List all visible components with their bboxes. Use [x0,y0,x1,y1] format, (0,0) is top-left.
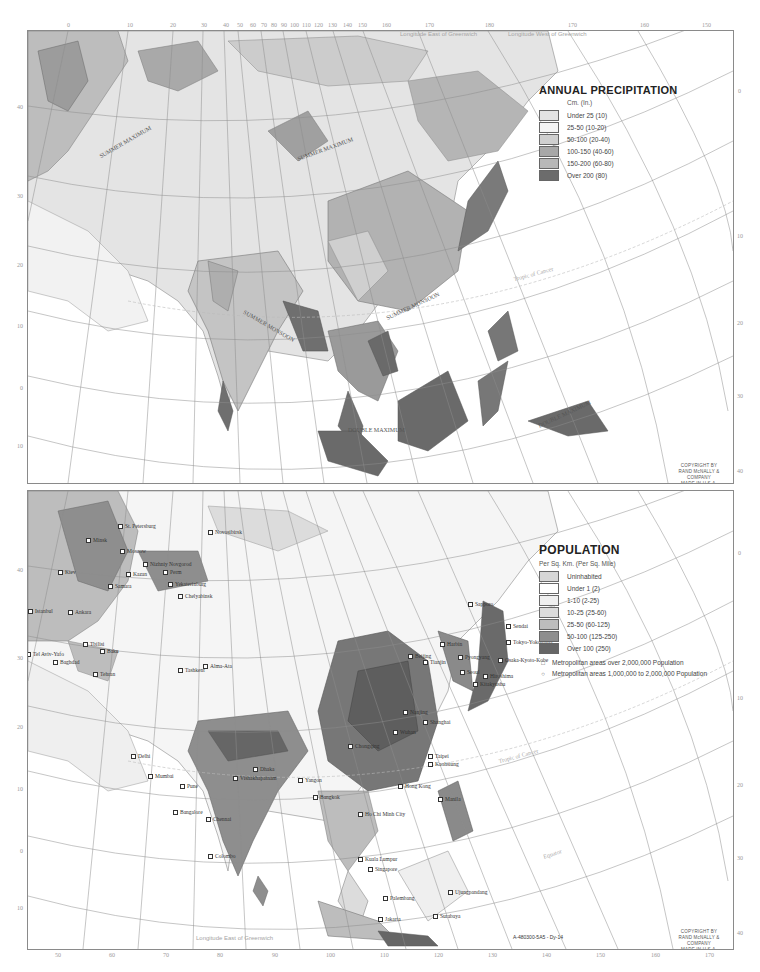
copyright-notice: COPYRIGHT BY RAND McNALLY & COMPANY MADE… [668,929,730,950]
legend-swatch [539,643,559,654]
legend-swatch [539,146,559,157]
legend-row: Under 1 (2) [539,582,707,594]
lon-tick: 130 [488,952,497,958]
city-label: Tbilisi [83,641,104,647]
city-label: Nanjing [403,709,428,715]
city-label: Ankara [68,609,91,615]
city-label: Minsk [86,537,107,543]
lon-tick: 130 [328,22,337,28]
city-label: Novosibirsk [208,529,242,535]
legend-swatch [539,158,559,169]
metro-legend-row: □Metropolitan areas over 2,000,000 Popul… [539,657,707,668]
legend-row: 100-150 (40-60) [539,145,678,157]
lon-tick: 110 [380,952,389,958]
city-label: Shanghai [423,719,450,725]
lon-tick: 120 [314,22,323,28]
city-label: Kitakyushu [473,681,505,687]
precipitation-legend: ANNUAL PRECIPITATION Cm. (In.) Under 25 … [539,84,678,181]
city-label: Jakarta [378,916,401,922]
precipitation-map: Longitude East of Greenwich Longitude We… [27,30,734,484]
lat-tick: 20 [17,724,23,730]
city-label: Manila [438,796,461,802]
lat-tick: 30 [737,393,743,399]
legend-swatch [539,631,559,642]
lon-tick: 70 [163,952,169,958]
longitude-west-label: Longitude West of Greenwich [508,31,587,37]
legend-label: Over 200 (80) [567,172,607,179]
lon-tick: 10 [127,22,133,28]
legend-label: 50-100 (20-40) [567,136,610,143]
legend-row: 150-200 (60-80) [539,157,678,169]
population-map: Tropic of Cancer Equator Longitude East … [27,490,734,950]
metro-legend-row: ○Metropolitan areas 1,000,000 to 2,000,0… [539,668,707,679]
legend-swatch [539,170,559,181]
lat-tick: 0 [20,385,23,391]
legend-label: Over 100 (250) [567,645,611,652]
city-label: Kaohsiung [428,761,459,767]
lon-tick: 150 [702,22,711,28]
lon-tick: 120 [434,952,443,958]
city-label: Chelyabinsk [178,593,213,599]
city-label: Wuhan [393,729,416,735]
city-label: Dhaka [253,766,274,772]
lon-tick: 160 [382,22,391,28]
city-label: Bangalore [173,809,203,815]
lat-tick: 0 [738,88,741,94]
legend-swatch [539,583,559,594]
legend-swatch [539,595,559,606]
lon-tick: 30 [201,22,207,28]
lat-tick: 30 [17,193,23,199]
legend-label: 100-150 (40-60) [567,148,614,155]
city-label: Delhi [131,753,150,759]
city-label: Hong Kong [398,783,431,789]
city-label: Colombo [208,853,235,859]
copyright-line: RAND McNALLY & COMPANY [668,469,730,481]
city-label: Vishakhapatnam [233,775,277,781]
lon-tick: 70 [261,22,267,28]
lon-tick: 0 [67,22,70,28]
lat-tick: 20 [737,782,743,788]
lon-tick: 40 [223,22,229,28]
copyright-notice: COPYRIGHT BY RAND McNALLY & COMPANY MADE… [668,463,730,484]
legend-title: POPULATION [539,543,707,557]
city-label: Tel Aviv-Yafo [27,651,64,657]
lat-tick: 10 [17,323,23,329]
population-legend: POPULATION Per Sq. Km. (Per Sq. Mile) Un… [539,543,707,679]
city-label: Harbin [440,641,462,647]
legend-label: 25-50 (10-20) [567,124,606,131]
city-label: Moscow [120,548,146,554]
plate-code: A-480300-5A5 - Dy-14 [513,934,563,940]
legend-row: 50-100 (125-250) [539,630,707,642]
lat-tick: 30 [737,855,743,861]
lat-tick: 40 [737,468,743,474]
copyright-line: MADE IN U.S.A. [668,947,730,950]
lat-tick: 20 [17,262,23,268]
city-label: Ho Chi Minh City [358,811,405,817]
city-label: Ujungpandang [448,889,487,895]
lon-tick: 100 [326,952,335,958]
copyright-line: MADE IN U.S.A. [668,481,730,484]
city-label: Singapore [368,866,397,872]
legend-row: 50-100 (20-40) [539,133,678,145]
lon-tick: 80 [271,22,277,28]
lon-tick: 170 [705,952,714,958]
lon-tick: 180 [485,22,494,28]
lat-tick: 0 [20,848,23,854]
city-label: Sendai [506,623,528,629]
lat-tick: 40 [17,104,23,110]
lat-tick: 10 [737,233,743,239]
lon-tick: 90 [281,22,287,28]
legend-row: Under 25 (10) [539,109,678,121]
lat-tick: 20 [737,320,743,326]
legend-units: Per Sq. Km. (Per Sq. Mile) [539,560,707,567]
legend-units: Cm. (In.) [567,99,678,106]
lon-tick: 160 [651,952,660,958]
city-label: Chongqing [348,743,379,749]
legend-row: 1-10 (2-25) [539,594,707,606]
legend-label: Under 25 (10) [567,112,607,119]
lon-tick: 160 [640,22,649,28]
lon-tick: 170 [425,22,434,28]
lat-tick: 10 [17,443,23,449]
legend-row: Over 100 (250) [539,642,707,654]
legend-row: Uninhabited [539,570,707,582]
